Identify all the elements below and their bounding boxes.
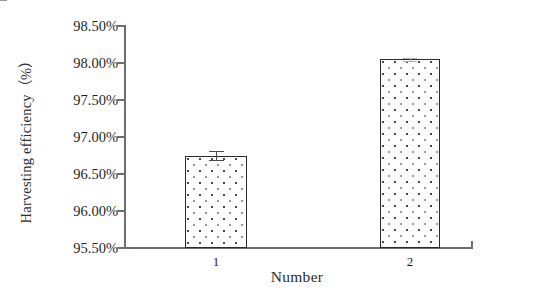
- y-axis-tick-mark: [117, 136, 125, 138]
- y-axis-tick-label: 98.50%: [38, 19, 118, 34]
- bar-chart-figure: Harvesting efficiency（%） 98.50% 98.00% 9…: [0, 0, 534, 300]
- y-axis-title: Harvesting efficiency（%）: [14, 29, 35, 249]
- y-axis-tick-label: 96.50%: [38, 167, 118, 182]
- y-axis-tick-label: 97.50%: [38, 93, 118, 108]
- y-axis-tick-label-group: 98.50% 98.00% 97.50% 97.00% 96.50% 96.00…: [34, 0, 118, 300]
- error-bar-upper-cap-category-1: [209, 151, 224, 152]
- x-axis-right-cap: [471, 241, 473, 249]
- y-axis-tick-mark: [117, 210, 125, 212]
- y-axis-tick-mark: [117, 99, 125, 101]
- y-axis-tick-label: 95.50%: [38, 241, 118, 256]
- error-bar-upper-cap-category-2: [403, 58, 417, 59]
- bar-category-2: [380, 59, 440, 248]
- x-axis-middle-tick: [0, 0, 7, 1]
- y-axis-tick-label: 97.00%: [38, 130, 118, 145]
- bar-category-1: [185, 156, 247, 249]
- y-axis-top-cap: [117, 25, 125, 27]
- y-axis-tick-mark: [117, 173, 125, 175]
- x-axis-tick-label-2: 2: [380, 254, 440, 270]
- y-axis-tick-mark: [117, 62, 125, 64]
- y-axis-tick-label: 96.00%: [38, 204, 118, 219]
- error-bar-lower-cap-category-2: [403, 61, 417, 62]
- y-axis-tick-mark: [117, 247, 125, 249]
- error-bar-lower-cap-category-1: [209, 160, 224, 161]
- y-axis-tick-label: 98.00%: [38, 56, 118, 71]
- x-axis-title: Number: [217, 268, 377, 286]
